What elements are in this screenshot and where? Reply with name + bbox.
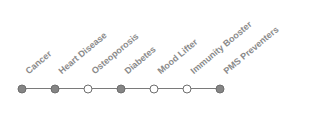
node-diabetes xyxy=(117,85,126,94)
node-osteoporosis xyxy=(84,85,93,94)
label-cancer: Cancer xyxy=(24,49,54,76)
node-mood-lifter xyxy=(150,85,159,94)
node-pms-preventers xyxy=(216,85,225,94)
node-heart-disease xyxy=(51,85,60,94)
node-immunity-booster xyxy=(183,85,192,94)
node-cancer xyxy=(18,85,27,94)
